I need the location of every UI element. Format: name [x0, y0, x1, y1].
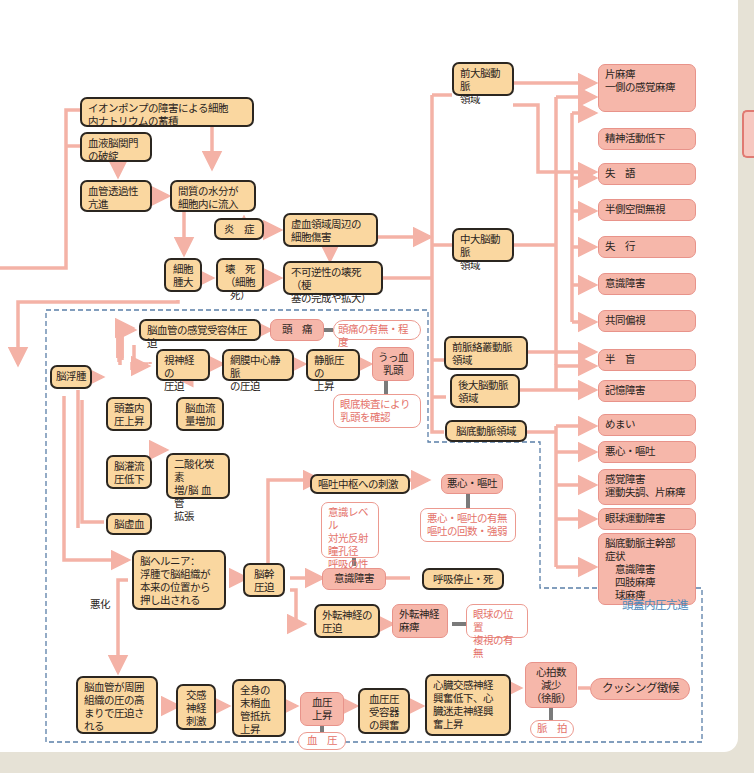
node-cpp-decrease: 脳灌流 圧低下 — [106, 455, 152, 489]
symptom-consciousness: 意識障害 — [598, 273, 696, 295]
section-label-icp: 頭蓋内圧亢進 — [622, 596, 688, 612]
node-optic-compression: 視神経の 圧迫 — [156, 349, 210, 381]
obs-papilledema: 眼底検査により 乳頭を確認 — [333, 394, 421, 428]
obs-bp: 血 圧 — [298, 732, 346, 750]
territory-mca: 中大脳動脈 領域 — [452, 228, 514, 262]
node-abducens-compression: 外転神経の 圧迫 — [314, 604, 380, 638]
node-retinal-vein: 網膜中心静脈 の圧迫 — [222, 349, 294, 381]
node-cbf-increase: 脳血流 量増加 — [176, 397, 224, 431]
symptom-sensory-ataxia: 感覚障害 運動失調、片麻痺 — [598, 469, 696, 505]
symptom-nausea: 悪心・嘔吐 — [598, 441, 696, 463]
node-brain-edema: 脳浮腫 — [50, 365, 92, 389]
territory-acha: 前脈絡叢動脈 領域 — [444, 336, 528, 370]
node-cell-swelling: 細胞 腫大 — [164, 258, 202, 292]
obs-abducens: 眼球の位置 複視の有無 — [466, 604, 528, 638]
node-vomit-center: 嘔吐中枢への刺激 — [310, 474, 410, 494]
obs-consciousness: 意識レベル 対光反射 瞳孔径 呼吸の性状 — [321, 502, 379, 558]
node-ischemia: 脳虚血 — [106, 513, 152, 535]
node-venous-pressure: 静脈圧の 上昇 — [306, 349, 360, 381]
node-vessel-sensory-compression: 脳血管の感覚受容体圧迫 — [139, 319, 261, 341]
territory-aca: 前大脳動脈 領域 — [452, 62, 514, 96]
node-baroreceptor: 血圧圧 受容器 の興奮 — [358, 688, 410, 734]
node-interstitial-water: 間質の水分が 細胞内に流入 — [170, 180, 256, 212]
node-vessel-compressed: 脳血管が周囲 組織の圧の高 まりで圧迫さ れる — [76, 676, 158, 734]
node-cardiac-autonomic: 心臓交感神経 興奮低下、心 臓迷走神経興 奮上昇 — [425, 674, 511, 736]
symptom-hemiplegia: 片麻痺 一側の感覚麻痺 — [598, 64, 696, 112]
territory-pca: 後大脳動脈 領域 — [450, 374, 520, 408]
node-hr-decrease: 心拍数 減少 （徐脈） — [525, 662, 577, 708]
node-headache: 頭 痛 — [270, 319, 324, 341]
node-ion-pump: イオンポンプの障害による細胞 内ナトリウムの蓄積 — [80, 97, 254, 127]
node-herniation: 脳ヘルニア： 浮腫で脳組織が 本来の位置から 押し出される — [132, 550, 226, 610]
symptom-hemianopia: 半 盲 — [598, 349, 696, 371]
node-cushing-sign: クッシング徴候 — [590, 678, 690, 700]
symptom-mental-decline: 精神活動低下 — [598, 128, 696, 150]
node-sympathetic: 交感 神経 刺激 — [176, 684, 216, 730]
symptom-memory: 記憶障害 — [598, 380, 696, 402]
obs-pulse: 脈 拍 — [530, 720, 574, 738]
node-nausea: 悪心・嘔吐 — [441, 474, 503, 494]
node-irreversible-necrosis: 不可逆性の壊死（梗 塞の完成や拡大） — [283, 261, 383, 295]
node-co2-vasodilation: 二酸化炭素 増/脳 血 管 拡張 — [166, 453, 230, 499]
node-respiratory-arrest: 呼吸停止・死 — [422, 568, 504, 590]
node-ischemic-injury: 虚血領域周辺の 細胞傷害 — [283, 213, 378, 247]
symptom-vertigo: めまい — [598, 414, 696, 436]
node-papilledema: うっ血 乳頭 — [372, 347, 414, 381]
territory-basilar: 脳底動脈領域 — [445, 420, 527, 442]
node-icp-rise: 頭蓋内 圧上昇 — [106, 397, 152, 431]
symptom-basilar-trunk: 脳底動脈主幹部 症状 意識障害 四肢麻痺 球麻痺 — [598, 533, 696, 605]
node-peripheral-resistance: 全身の 末梢血 管抵抗 上昇 — [232, 679, 286, 737]
symptom-neglect: 半側空間無視 — [598, 199, 696, 221]
node-necrosis: 壊 死 （細胞死） — [216, 258, 264, 292]
obs-headache: 頭痛の有無・程度 — [333, 320, 421, 340]
symptom-apraxia: 失 行 — [598, 236, 696, 258]
node-abducens-palsy: 外転神経 麻痺 — [392, 604, 448, 638]
node-vascular-permeability: 血管透過性 亢進 — [80, 180, 152, 212]
node-bp-rise: 血圧 上昇 — [300, 692, 344, 726]
node-consciousness-disorder: 意識障害 — [322, 568, 386, 590]
label-worsening: 悪化 — [90, 596, 110, 611]
node-inflammation: 炎 症 — [214, 218, 264, 240]
symptom-eye-movement: 眼球運動障害 — [598, 508, 696, 530]
node-brainstem-compression: 脳幹 圧迫 — [243, 563, 285, 597]
symptom-conjugate-deviation: 共同偏視 — [598, 310, 696, 332]
node-bbb-breakdown: 血液脳関門 の破綻 — [80, 132, 152, 162]
symptom-aphasia: 失 語 — [598, 163, 696, 185]
obs-nausea: 悪心・嘔吐の有無 嘔吐の回数・強弱 — [420, 508, 516, 542]
